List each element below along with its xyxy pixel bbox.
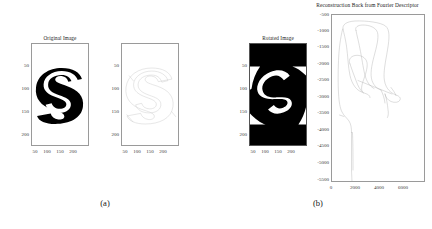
ytick-fourier-6: -3500: [305, 110, 329, 115]
ytick-original-image-3: 200: [18, 132, 29, 137]
figure-root: Original Image 50 100 150 200 50 100 150…: [0, 0, 432, 229]
ytick-fourier-10: -5500: [305, 177, 329, 182]
ytick-original-image-1: 100: [18, 86, 29, 91]
ytick-original-boundary-2: 150: [108, 109, 119, 114]
xtick-original-boundary-1: 100: [130, 149, 144, 154]
xtick-original-boundary-2: 150: [143, 149, 157, 154]
ytick-original-boundary-1: 100: [108, 86, 119, 91]
ytick-fourier-2: -1500: [305, 44, 329, 49]
original-image-canvas: [32, 44, 89, 146]
xtick-fourier-2: 4000: [370, 185, 388, 190]
axes-original-image: [31, 43, 89, 146]
ytick-rotated-image-3: 200: [236, 132, 247, 137]
ytick-fourier-8: -4500: [305, 143, 329, 148]
ytick-fourier-5: -3000: [305, 94, 329, 99]
ytick-fourier-7: -4000: [305, 127, 329, 132]
ytick-rotated-image-1: 100: [236, 86, 247, 91]
boundary-contour-canvas: [122, 44, 179, 146]
ytick-rotated-image-0: 50: [236, 63, 247, 68]
xtick-original-boundary-3: 200: [156, 149, 170, 154]
axes-original-boundary: [121, 43, 179, 146]
fourier-reconstruction-canvas: [332, 15, 425, 182]
xtick-rotated-image-2: 150: [271, 149, 285, 154]
ytick-original-boundary-3: 200: [108, 132, 119, 137]
ytick-original-image-2: 150: [18, 109, 29, 114]
ytick-fourier-0: -500: [305, 12, 329, 17]
panel-original-image: Original Image 50 100 150 200 50 100 150…: [20, 30, 100, 155]
rotated-image-canvas: [250, 44, 307, 146]
xtick-original-image-1: 100: [40, 149, 54, 154]
ytick-fourier-4: -2500: [305, 77, 329, 82]
ytick-original-boundary-0: 50: [108, 63, 119, 68]
plot-title-original-image: Original Image: [20, 35, 100, 41]
axes-fourier-reconstruction: [331, 14, 425, 182]
ytick-original-image-0: 50: [18, 63, 29, 68]
ytick-fourier-9: -5000: [305, 160, 329, 165]
xtick-fourier-3: 6000: [394, 185, 412, 190]
xtick-original-image-2: 150: [53, 149, 67, 154]
xtick-fourier-1: 2000: [346, 185, 364, 190]
xtick-rotated-image-3: 200: [284, 149, 298, 154]
panel-fourier-reconstruction: Reconstruction Back from Fourier Descrip…: [305, 2, 430, 197]
panel-original-boundary: 50 100 150 200 50 100 150 200: [110, 30, 190, 155]
xtick-fourier-0: 0: [322, 185, 340, 190]
xtick-rotated-image-1: 100: [258, 149, 272, 154]
ytick-fourier-1: -1000: [305, 28, 329, 33]
ytick-rotated-image-2: 150: [236, 109, 247, 114]
plot-title-fourier-reconstruction: Reconstruction Back from Fourier Descrip…: [305, 2, 430, 8]
axes-rotated-image: [249, 43, 307, 146]
caption-a: (a): [75, 198, 135, 208]
caption-b: (b): [288, 198, 348, 208]
xtick-original-image-3: 200: [66, 149, 80, 154]
ytick-fourier-3: -2000: [305, 61, 329, 66]
